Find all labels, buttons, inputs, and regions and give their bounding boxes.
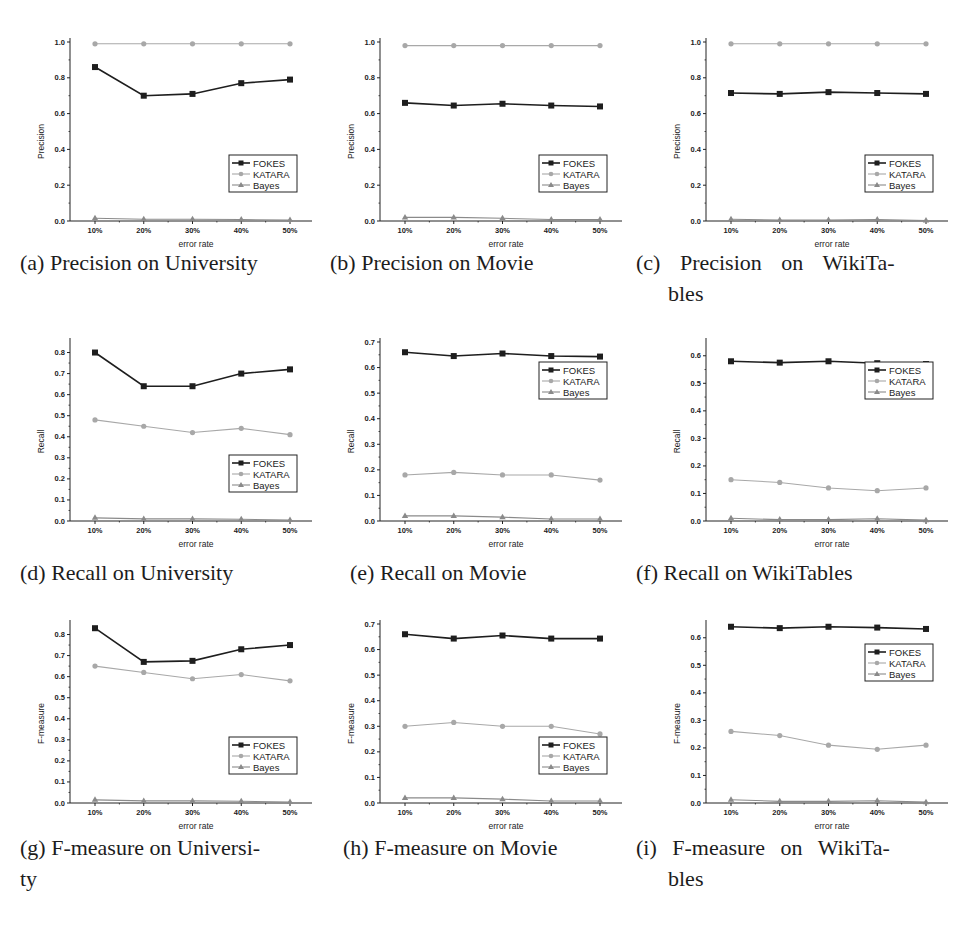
y-tick-label: 0.6 <box>55 672 65 681</box>
y-tick-label: 0.3 <box>365 722 375 731</box>
caption-text-continued: bles <box>668 863 936 894</box>
y-tick-label: 0.4 <box>55 432 66 441</box>
x-tick-label: 30% <box>821 226 836 235</box>
y-tick-label: 0.1 <box>55 495 65 504</box>
series-fokes <box>92 625 293 665</box>
legend-label: Bayes <box>253 480 280 491</box>
legend-label: Bayes <box>889 669 916 680</box>
y-axis-label: F-measure <box>346 703 356 744</box>
legend-label: Bayes <box>253 762 280 773</box>
caption-a: (a) Precision on University <box>20 247 258 278</box>
legend: FOKESKATARABayes <box>229 155 297 192</box>
x-axis-label: error rate <box>815 539 850 549</box>
legend: FOKESKATARABayes <box>539 362 607 399</box>
x-tick-label: 40% <box>870 226 885 235</box>
legend-label: FOKES <box>563 740 595 751</box>
caption-text: (g) F-measure on Universi- <box>20 832 260 863</box>
y-tick-label: 0.6 <box>691 633 701 642</box>
y-tick-label: 0.5 <box>691 379 701 388</box>
x-tick-label: 50% <box>918 526 933 535</box>
x-tick-label: 20% <box>772 808 787 817</box>
legend-label: FOKES <box>563 365 595 376</box>
legend-label: KATARA <box>563 376 600 387</box>
y-tick-label: 0.4 <box>365 145 376 154</box>
caption-text: (a) Precision on University <box>20 250 258 275</box>
y-tick-label: 0.3 <box>55 453 65 462</box>
chart-panel-h: 0.00.10.20.30.40.50.60.710%20%30%40%50%e… <box>310 612 630 842</box>
y-tick-label: 0.4 <box>691 688 702 697</box>
chart-panel-c: 0.00.20.40.60.81.010%20%30%40%50%error r… <box>636 30 956 250</box>
legend: FOKESKATARABayes <box>865 644 933 681</box>
legend-label: Bayes <box>563 762 590 773</box>
x-tick-label: 30% <box>821 808 836 817</box>
x-tick-label: 20% <box>136 808 151 817</box>
x-tick-label: 30% <box>821 526 836 535</box>
series-fokes <box>92 350 293 390</box>
y-axis-label: F-measure <box>672 703 682 744</box>
legend: FOKESKATARABayes <box>865 155 933 192</box>
series-katara <box>92 417 292 437</box>
legend-label: Bayes <box>563 387 590 398</box>
y-tick-label: 0.5 <box>691 661 701 670</box>
x-tick-label: 30% <box>495 526 510 535</box>
x-tick-label: 20% <box>136 526 151 535</box>
legend-label: FOKES <box>563 158 595 169</box>
legend: FOKESKATARABayes <box>865 362 933 399</box>
x-tick-label: 50% <box>282 226 297 235</box>
y-tick-label: 0.4 <box>365 414 376 423</box>
chart-panel-e: 0.00.10.20.30.40.50.60.710%20%30%40%50%e… <box>310 330 630 560</box>
y-tick-label: 0.7 <box>365 620 375 629</box>
y-tick-label: 0.6 <box>365 645 375 654</box>
y-tick-label: 0.0 <box>691 217 701 226</box>
x-tick-label: 50% <box>592 526 607 535</box>
y-tick-label: 0.4 <box>55 145 66 154</box>
legend: FOKESKATARABayes <box>229 737 297 774</box>
line-chart: 0.00.10.20.30.40.50.60.710%20%30%40%50%e… <box>310 612 630 842</box>
y-tick-label: 0.0 <box>55 799 65 808</box>
series-katara <box>92 41 292 46</box>
caption-c: (c) Precision on WikiTa- bles <box>636 247 936 309</box>
y-tick-label: 0.2 <box>365 747 375 756</box>
line-chart: 0.00.10.20.30.40.50.610%20%30%40%50%erro… <box>636 612 956 842</box>
y-tick-label: 0.8 <box>55 73 65 82</box>
legend-label: KATARA <box>253 751 290 762</box>
chart-panel-f: 0.00.10.20.30.40.50.610%20%30%40%50%erro… <box>636 330 956 560</box>
y-axis-label: Recall <box>36 430 46 454</box>
x-tick-label: 40% <box>870 808 885 817</box>
x-tick-label: 10% <box>87 526 102 535</box>
y-tick-label: 0.2 <box>55 181 65 190</box>
legend-label: KATARA <box>889 169 926 180</box>
x-tick-label: 50% <box>918 808 933 817</box>
x-tick-label: 20% <box>136 226 151 235</box>
x-tick-label: 50% <box>918 226 933 235</box>
series-fokes <box>728 624 929 632</box>
caption-text: (f) Recall on WikiTables <box>636 560 853 585</box>
y-tick-label: 0.6 <box>365 109 375 118</box>
caption-text: (i) F-measure on WikiTa- <box>636 832 936 863</box>
y-tick-label: 0.2 <box>691 743 701 752</box>
series-katara <box>728 41 928 46</box>
y-tick-label: 0.0 <box>365 799 375 808</box>
legend-label: FOKES <box>253 158 285 169</box>
line-chart: 0.00.10.20.30.40.50.610%20%30%40%50%erro… <box>636 330 956 560</box>
y-tick-label: 0.8 <box>365 73 375 82</box>
series-bayes <box>402 214 603 222</box>
x-tick-label: 10% <box>87 808 102 817</box>
x-tick-label: 40% <box>544 226 559 235</box>
x-axis-label: error rate <box>815 821 850 831</box>
line-chart: 0.00.10.20.30.40.50.60.70.810%20%30%40%5… <box>0 330 320 560</box>
y-tick-label: 0.3 <box>365 440 375 449</box>
x-tick-label: 40% <box>544 808 559 817</box>
y-tick-label: 0.5 <box>365 671 375 680</box>
x-tick-label: 10% <box>397 526 412 535</box>
y-tick-label: 0.6 <box>55 109 65 118</box>
y-tick-label: 0.8 <box>691 73 701 82</box>
series-katara <box>728 477 928 493</box>
x-tick-label: 40% <box>870 526 885 535</box>
caption-text: (c) Precision on WikiTa- <box>636 247 936 278</box>
series-katara <box>728 729 928 752</box>
legend-label: KATARA <box>253 469 290 480</box>
y-tick-label: 1.0 <box>691 38 701 47</box>
x-tick-label: 30% <box>495 226 510 235</box>
y-tick-label: 0.7 <box>55 651 65 660</box>
